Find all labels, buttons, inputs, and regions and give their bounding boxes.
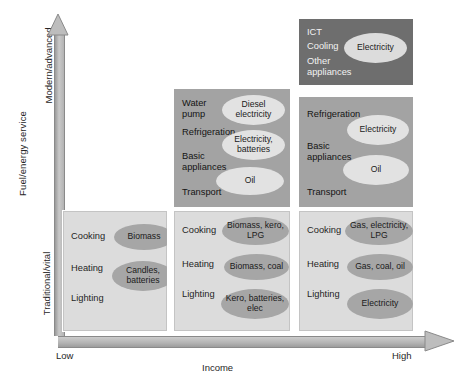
- service-label-transport: Transport: [307, 187, 346, 198]
- x-axis-arrow-shaft: [58, 336, 429, 348]
- y-axis-arrow-head: [47, 13, 69, 36]
- x-axis-low-label: Low: [56, 350, 73, 361]
- box-high-income-intermediate[interactable]: Refrigeration Basic appliances Transport…: [298, 96, 414, 208]
- box-medium-income-intermediate[interactable]: Water pump Refrigeration Basic appliance…: [173, 88, 291, 208]
- service-label-cooking: Cooking: [71, 231, 105, 242]
- service-label-cooking: Cooking: [307, 225, 341, 236]
- fuel-ellipse-kero-batteries-elec[interactable]: Kero, batteries, elec: [221, 289, 289, 319]
- fuel-ellipse-biomass-coal[interactable]: Biomass, coal: [224, 254, 289, 280]
- fuel-ellipse-gas-coal-oil[interactable]: Gas, coal, oil: [347, 254, 413, 280]
- service-label-water-pump: Water pump: [182, 98, 206, 119]
- fuel-ellipse-electricity[interactable]: Electricity: [347, 115, 409, 145]
- fuel-ellipse-electricity[interactable]: Electricity: [344, 33, 407, 63]
- fuel-ellipse-electricity[interactable]: Electricity: [347, 289, 413, 319]
- fuel-ellipse-electricity-batteries[interactable]: Electricity, batteries: [222, 130, 285, 160]
- service-label-heating: Heating: [307, 259, 339, 270]
- service-label-heating: Heating: [182, 259, 214, 270]
- service-label-basic-appliances: Basic appliances: [182, 151, 226, 172]
- fuel-ellipse-oil[interactable]: Oil: [216, 167, 284, 195]
- diagram-canvas: Fuel/energy service Modern/advanced Trad…: [0, 0, 461, 380]
- service-label-basic-appliances: Basic appliances: [307, 141, 351, 162]
- x-axis-arrow-head: [424, 328, 456, 354]
- fuel-ellipse-biomass[interactable]: Biomass: [114, 224, 168, 250]
- service-label-cooling: Cooling: [307, 41, 339, 52]
- fuel-ellipse-diesel-electricity[interactable]: Diesel electricity: [222, 95, 285, 125]
- box-low-income-basic[interactable]: Cooking Heating Lighting Biomass Candles…: [62, 210, 168, 332]
- box-high-income-basic[interactable]: Cooking Heating Lighting Gas, electricit…: [298, 210, 414, 332]
- service-label-ict: ICT: [307, 27, 322, 38]
- box-high-income-advanced[interactable]: ICT Cooling Other appliances Electricity: [298, 18, 414, 86]
- fuel-ellipse-oil[interactable]: Oil: [343, 155, 409, 185]
- box-medium-income-basic[interactable]: Cooking Heating Lighting Biomass, kero, …: [173, 210, 291, 332]
- fuel-ellipse-candles-batteries[interactable]: Candles, batteries: [112, 261, 168, 291]
- fuel-ellipse-gas-electricity-lpg[interactable]: Gas, electricity, LPG: [345, 217, 413, 245]
- service-label-lighting: Lighting: [182, 289, 215, 300]
- x-axis-title: Income: [202, 362, 233, 373]
- service-label-other-appliances: Other appliances: [307, 56, 351, 77]
- service-label-transport: Transport: [182, 187, 221, 198]
- service-label-heating: Heating: [71, 263, 103, 274]
- service-label-lighting: Lighting: [307, 289, 340, 300]
- y-axis-bottom-label: Traditional/vital: [41, 224, 52, 344]
- service-label-lighting: Lighting: [71, 293, 104, 304]
- fuel-ellipse-biomass-kero-lpg[interactable]: Biomass, kero, LPG: [222, 217, 289, 245]
- y-axis-title: Fuel/energy service: [17, 74, 28, 234]
- service-label-group: Refrigeration Basic appliances Transport: [307, 97, 385, 207]
- service-label-refrigeration: Refrigeration: [307, 109, 360, 120]
- service-label-cooking: Cooking: [182, 225, 216, 236]
- x-axis-high-label: High: [392, 350, 412, 361]
